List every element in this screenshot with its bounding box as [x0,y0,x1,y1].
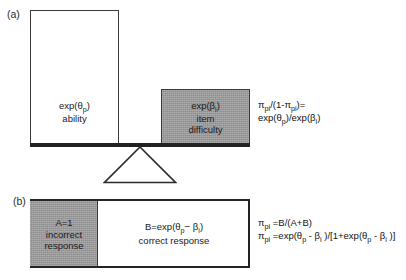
odds-ratio-formula-line1: πpi/(1-πpi)= [258,99,320,112]
correct-response-text: B=exp(θp− βi) correct response [99,221,249,247]
difficulty-exp-label: exp(βi) [161,100,250,113]
incorrect-a-label: A=1 [30,217,98,229]
correct-b-label: B=exp(θp− βi) [99,221,249,235]
odds-ratio-formula-line2: exp(θp)/exp(βi) [258,112,320,125]
odds-ratio-formula: πpi/(1-πpi)= exp(θp)/exp(βi) [258,99,320,125]
panel-b-label: (b) [13,195,26,207]
irt-balance-diagram: (a) exp(θp) ability exp(βi) item difficu… [0,0,406,280]
ability-word-label: ability [30,113,119,125]
ability-exp-label: exp(θp) [30,100,119,113]
correct-word-label: correct response [99,235,249,248]
probability-formula-line2: πpi =exp(θp - βi )/[1+exp(θp - βi )] [258,230,395,243]
probability-formula: πpi =B/(A+B) πpi =exp(θp - βi )/[1+exp(θ… [258,217,395,243]
incorrect-word-1: incorrect [30,229,98,241]
ability-box-text: exp(θp) ability [30,100,119,124]
panel-a-label: (a) [7,8,20,20]
difficulty-word-difficulty: difficulty [161,124,250,136]
probability-formula-line1: πpi =B/(A+B) [258,217,395,230]
difficulty-word-item: item [161,113,250,125]
incorrect-word-2: response [30,240,98,252]
triangle-fulcrum-icon [103,146,177,184]
incorrect-response-text: A=1 incorrect response [30,217,98,252]
item-difficulty-box-text: exp(βi) item difficulty [161,100,250,136]
